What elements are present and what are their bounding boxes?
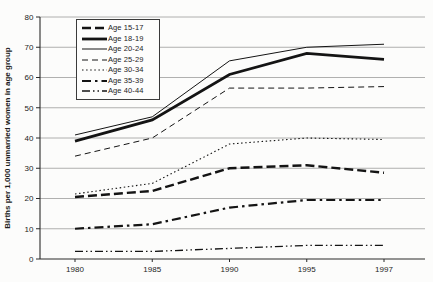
y-axis-title: Births per 1,000 unmarried women in age …: [3, 47, 12, 228]
svg-text:30: 30: [25, 164, 34, 173]
legend-item: Age 15-17: [81, 23, 156, 33]
legend-line-sample-age-40-44: [81, 86, 108, 96]
legend-label: Age 35-39: [108, 76, 144, 86]
legend-item: Age 30-34: [81, 65, 156, 75]
svg-text:1995: 1995: [298, 265, 316, 274]
legend-label: Age 15-17: [108, 23, 144, 33]
legend-item: Age 35-39: [81, 76, 156, 86]
legend-line-sample-age-30-34: [81, 65, 108, 75]
legend-item: Age 40-44: [81, 86, 156, 96]
chart-figure: 0102030405060708019801985199019951997 Bi…: [0, 0, 433, 282]
svg-text:1997: 1997: [375, 265, 393, 274]
legend-line-sample-age-25-29: [81, 55, 108, 65]
svg-text:1980: 1980: [66, 265, 84, 274]
line-chart: 0102030405060708019801985199019951997 Bi…: [0, 0, 433, 282]
legend-label: Age 25-29: [108, 55, 144, 65]
svg-text:80: 80: [25, 13, 34, 22]
svg-text:40: 40: [25, 134, 34, 143]
legend-line-sample-age-15-17: [81, 23, 108, 33]
legend-line-sample-age-20-24: [81, 44, 108, 54]
legend: Age 15-17 Age 18-19 Age 20-24 Age 25-29 …: [76, 19, 160, 100]
legend-label: Age 30-34: [108, 65, 144, 75]
legend-label: Age 20-24: [108, 44, 144, 54]
svg-text:1990: 1990: [221, 265, 239, 274]
svg-text:60: 60: [25, 73, 34, 82]
legend-item: Age 20-24: [81, 44, 156, 54]
svg-text:10: 10: [25, 225, 34, 234]
legend-line-sample-age-35-39: [81, 76, 108, 86]
legend-label: Age 18-19: [108, 34, 144, 44]
svg-text:0: 0: [29, 255, 34, 264]
svg-text:70: 70: [25, 43, 34, 52]
legend-item: Age 18-19: [81, 34, 156, 44]
legend-label: Age 40-44: [108, 86, 144, 96]
legend-line-sample-age-18-19: [81, 34, 108, 44]
svg-text:20: 20: [25, 194, 34, 203]
svg-text:50: 50: [25, 104, 34, 113]
svg-text:1985: 1985: [143, 265, 161, 274]
legend-item: Age 25-29: [81, 55, 156, 65]
